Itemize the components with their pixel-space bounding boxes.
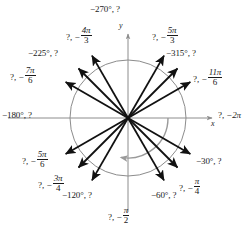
label-neg-315-deg: −315° [166,48,188,58]
unit-circle-figure: −270°, ? ?, −5π3 −315°, ? ?, −11π6 ?, −2… [0,0,252,227]
label-neg-30-deg: −30° [196,156,213,166]
label-neg-180-deg: −180° [2,110,24,120]
fraction: 3π4 [53,174,64,194]
fraction-denominator: 4 [53,184,64,193]
fraction: 5π3 [167,26,178,46]
fraction: 7π6 [25,66,36,86]
fraction: 5π6 [37,150,48,170]
label-neg-11pi-6: ?, −11π6 [193,68,223,88]
fraction: 11π6 [208,68,223,88]
label-neg-270-deg: −270° [90,4,112,14]
fraction-denominator: 4 [194,187,200,196]
label-neg-5pi-3-sign: − [160,32,166,42]
label-neg-120: −120°, ? [62,191,92,200]
label-neg-3pi-4: ?, −3π4 [38,174,64,194]
label-neg-pi-2: ?, −π2 [108,206,130,226]
fraction: π2 [123,206,129,226]
label-neg-11pi-6-sign: − [201,74,207,84]
label-neg-5pi-3: ?, −5π3 [152,26,178,46]
label-neg-120-deg: −120° [62,190,84,200]
label-neg-270: −270°, ? [90,5,120,14]
y-axis-label: y [119,22,122,30]
label-neg-225-rad: ? [54,48,58,58]
fraction: 4π3 [81,26,92,46]
fraction-denominator: 2 [123,216,129,225]
label-neg-225-deg: −225° [28,48,50,58]
fraction: π4 [194,177,200,197]
label-neg-60-deg: −60° [151,190,168,200]
label-neg-7pi-6-sign: − [18,72,24,82]
label-neg-pi-4-sign: − [187,183,193,193]
label-neg-60: −60°, ? [151,191,177,200]
label-neg-180-rad: ? [28,110,32,120]
label-neg-7pi-6: ?, −7π6 [10,66,36,86]
fraction-denominator: 3 [81,36,92,45]
fraction-denominator: 6 [37,160,48,169]
label-neg-30-rad: ? [218,156,222,166]
fraction-denominator: 6 [25,76,36,85]
label-neg-2pi-val: −2π [226,110,241,120]
label-neg-30: −30°, ? [196,157,222,166]
label-neg-4pi-3: ?, −4π3 [66,26,92,46]
label-neg-270-rad: ? [116,4,120,14]
label-neg-5pi-6: ?, −5π6 [22,150,48,170]
label-neg-2pi: ?, −2π [218,111,241,120]
label-neg-60-rad: ? [173,190,177,200]
label-neg-180: −180°, ? [2,111,32,120]
label-neg-3pi-4-sign: − [46,180,52,190]
label-neg-5pi-6-sign: − [30,156,36,166]
label-neg-225: −225°, ? [28,49,58,58]
label-neg-315-rad: ? [192,48,196,58]
label-neg-pi-4: ?, −π4 [179,177,201,197]
label-neg-4pi-3-sign: − [74,32,80,42]
fraction-denominator: 3 [167,36,178,45]
label-neg-pi-2-sign: − [116,212,122,222]
label-neg-120-rad: ? [88,190,92,200]
fraction-denominator: 6 [208,78,223,87]
x-axis-label: x [211,120,214,128]
label-neg-315: −315°, ? [166,49,196,58]
